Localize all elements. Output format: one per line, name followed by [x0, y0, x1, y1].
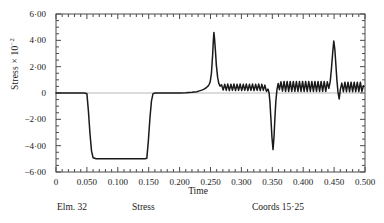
x-tick-label: 0.050 — [77, 177, 97, 187]
y-tick-label: −6·00 — [0, 167, 46, 177]
y-tick-label: 4·00 — [0, 35, 46, 45]
x-tick-label: 0.450 — [324, 177, 344, 187]
x-axis-title: Time — [168, 186, 228, 196]
y-tick-label: −2·00 — [0, 114, 46, 124]
y-tick-label: 2·00 — [0, 62, 46, 72]
x-tick-label: 0.150 — [139, 177, 159, 187]
y-tick-label: −4·00 — [0, 141, 46, 151]
stress-trace — [56, 32, 363, 158]
x-tick-label: 0.300 — [231, 177, 251, 187]
x-tick-label: 0 — [54, 177, 59, 187]
x-tick-label: 0.500 — [355, 177, 375, 187]
y-tick-label: 6·00 — [0, 9, 46, 19]
footer-coords-label: Coords 15·25 — [252, 202, 304, 212]
x-tick-label: 0.350 — [262, 177, 282, 187]
footer-quantity-label: Stress — [132, 202, 155, 212]
footer-element-label: Elm. 32 — [57, 202, 87, 212]
stress-time-chart: Stress × 10−2 −6·00−4·00−2·0002·004·006·… — [0, 0, 384, 223]
x-tick-label: 0.400 — [293, 177, 313, 187]
y-tick-label: 0 — [0, 88, 46, 98]
x-tick-label: 0.100 — [108, 177, 128, 187]
